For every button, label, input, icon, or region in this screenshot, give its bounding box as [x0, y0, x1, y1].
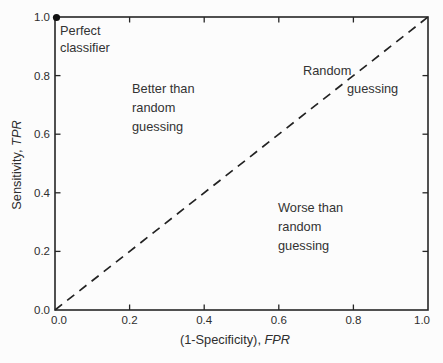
y-tick-label: 0.0: [34, 304, 50, 316]
y-axis-label-italic: TPR: [9, 120, 24, 146]
annotation-line: guessing: [347, 81, 398, 96]
annotation-better-than-random: Better than random guessing: [132, 81, 195, 134]
x-tick-label: 1.0: [414, 314, 430, 326]
y-tick-label: 1.0: [34, 11, 50, 23]
annotation-perfect-classifier: Perfect classifier: [60, 23, 111, 55]
x-axis-label-italic: FPR: [265, 332, 291, 347]
y-tick-labels: 0.0 0.2 0.4 0.6 0.8 1.0: [34, 11, 51, 316]
annotation-line: random: [278, 219, 321, 234]
annotation-line: guessing: [132, 119, 183, 134]
x-axis-label-regular: (1-Specificity),: [180, 332, 265, 347]
annotation-random-guessing: Random guessing: [303, 63, 398, 96]
x-tick-labels: 0.0 0.2 0.4 0.6 0.8 1.0: [51, 314, 430, 326]
x-tick-label: 0.0: [51, 314, 67, 326]
roc-chart-canvas: 0.0 0.2 0.4 0.6 0.8 1.0 0.0 0.2 0.4 0.6 …: [0, 0, 443, 363]
y-axis-label-regular: Sensitivity,: [9, 146, 24, 210]
y-tick-label: 0.8: [34, 70, 50, 82]
x-tick-label: 0.6: [271, 314, 287, 326]
perfect-classifier-point: [53, 14, 60, 21]
y-axis-label: Sensitivity, TPR: [9, 120, 24, 209]
annotation-worse-than-random: Worse than random guessing: [278, 200, 343, 253]
annotation-line: Random: [303, 63, 351, 78]
x-axis-label: (1-Specificity), FPR: [180, 332, 290, 347]
y-tick-label: 0.4: [34, 187, 51, 199]
annotation-line: Perfect: [60, 23, 101, 38]
annotation-line: classifier: [60, 40, 111, 55]
roc-space-figure: 0.0 0.2 0.4 0.6 0.8 1.0 0.0 0.2 0.4 0.6 …: [0, 0, 443, 363]
annotation-line: guessing: [278, 238, 329, 253]
annotation-line: Better than: [132, 81, 195, 96]
annotation-line: Worse than: [278, 200, 343, 215]
random-guessing-line: [55, 17, 428, 310]
x-tick-label: 0.8: [345, 314, 361, 326]
x-tick-label: 0.4: [196, 314, 213, 326]
annotation-line: random: [132, 100, 175, 115]
y-tick-label: 0.2: [34, 245, 50, 257]
x-tick-label: 0.2: [122, 314, 138, 326]
y-tick-label: 0.6: [34, 128, 50, 140]
